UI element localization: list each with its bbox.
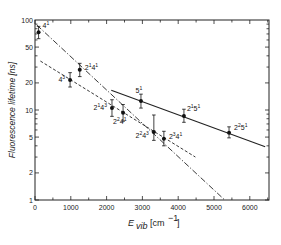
- point-label: 2341: [169, 131, 183, 140]
- data-point: 2143: [94, 100, 114, 117]
- point-label: 2143: [94, 102, 108, 111]
- x-tick-label: 5000: [206, 204, 222, 211]
- y-tick-label: 50: [25, 44, 33, 51]
- y-tick-label: 1: [29, 197, 33, 204]
- y-axis-ticks: 125102050100: [21, 17, 269, 204]
- y-tick-label: 2: [29, 169, 33, 176]
- dashdot-fit-line: [37, 25, 225, 200]
- point-label: 41: [43, 20, 50, 29]
- x-tick-label: 4000: [170, 204, 186, 211]
- fit-lines: [37, 25, 265, 200]
- data-point: 2251: [227, 122, 248, 138]
- x-label-sub: vib: [136, 221, 148, 231]
- data-points: 4143214121432241512243234121512251: [37, 20, 248, 146]
- point-label: 43: [58, 74, 65, 83]
- y-tick-label: 10: [25, 107, 33, 114]
- point-label: 2251: [234, 122, 248, 131]
- x-tick-label: 6000: [242, 204, 258, 211]
- point-label: 2141: [85, 62, 99, 71]
- data-point: 2141: [78, 62, 99, 77]
- data-point: 51: [136, 85, 143, 108]
- point-label: 2241: [113, 116, 127, 125]
- plot-frame: [35, 20, 269, 200]
- x-label-unit: [cm: [150, 218, 165, 228]
- data-point: 2241: [113, 105, 127, 125]
- x-label-unit-close: ]: [177, 218, 180, 228]
- solid-fit-line: [111, 90, 265, 147]
- x-tick-label: 2000: [99, 204, 115, 211]
- y-axis-label: Fluorescence lifetime [ns]: [7, 61, 17, 158]
- point-label: 51: [136, 85, 143, 94]
- x-axis-label: E vib [cm −1 ]: [128, 213, 180, 231]
- y-tick-label: 20: [25, 79, 33, 86]
- x-tick-label: 1000: [63, 204, 79, 211]
- data-point: 2341: [162, 131, 183, 146]
- point-label: 2151: [187, 103, 201, 112]
- x-tick-label: 3000: [135, 204, 151, 211]
- data-point: 43: [58, 73, 72, 87]
- x-axis-ticks: 0100020003000400050006000: [33, 20, 268, 211]
- data-point: 2243: [135, 115, 155, 140]
- y-tick-label: 5: [29, 134, 33, 141]
- data-point: 41: [37, 20, 50, 38]
- x-label-main: E: [128, 218, 135, 228]
- y-tick-label: 100: [21, 17, 33, 24]
- lifetime-chart: 0100020003000400050006000 125102050100 4…: [0, 0, 281, 245]
- point-label: 2243: [135, 130, 149, 139]
- x-tick-label: 0: [33, 204, 37, 211]
